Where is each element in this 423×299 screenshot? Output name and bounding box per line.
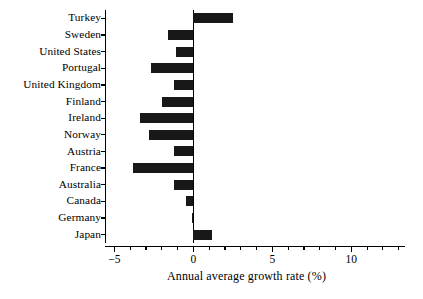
- x-axis-minor-tick: [367, 246, 368, 250]
- y-axis-label-united-states: United States: [0, 46, 101, 57]
- x-axis-minor-tick: [335, 246, 336, 250]
- x-axis-minor-tick: [161, 246, 162, 250]
- y-axis-tick: [101, 34, 106, 35]
- y-axis-label-germany: Germany: [0, 212, 101, 223]
- x-axis-tick-label: 10: [346, 253, 358, 266]
- x-axis-major-tick: [351, 246, 352, 252]
- bar-norway: [149, 130, 193, 140]
- x-axis-minor-tick: [303, 246, 304, 250]
- y-axis-category-labels: TurkeySwedenUnited StatesPortugalUnited …: [0, 10, 101, 243]
- x-axis-minor-tick: [240, 246, 241, 250]
- y-axis-tick: [101, 151, 106, 152]
- y-axis-tick: [101, 134, 106, 135]
- bar-united-kingdom: [174, 80, 193, 90]
- y-axis-tick: [101, 118, 106, 119]
- y-axis-label-france: France: [0, 162, 101, 173]
- y-axis-spine: [105, 10, 106, 243]
- x-axis-tick-label: −5: [108, 253, 120, 266]
- bar-turkey: [193, 13, 232, 23]
- x-axis-tick-labels: −50510: [0, 253, 423, 269]
- bar-germany: [192, 213, 194, 223]
- y-axis-label-united-kingdom: United Kingdom: [0, 79, 101, 90]
- zero-reference-line: [193, 10, 194, 243]
- x-axis-minor-tick: [177, 246, 178, 250]
- x-axis-minor-tick: [224, 246, 225, 250]
- y-axis-tick: [101, 234, 106, 235]
- x-axis-minor-tick: [209, 246, 210, 250]
- x-axis-tick-label: 5: [269, 253, 275, 266]
- x-axis-minor-tick: [130, 246, 131, 250]
- y-axis-tick: [101, 51, 106, 52]
- x-axis-major-tick: [272, 246, 273, 252]
- x-axis-minor-tick: [288, 246, 289, 250]
- x-axis-title-text: Annual average growth rate (%): [167, 269, 326, 283]
- y-axis-label-sweden: Sweden: [0, 29, 101, 40]
- y-axis-tick: [101, 217, 106, 218]
- bar-sweden: [168, 30, 193, 40]
- plot-area: [105, 10, 405, 243]
- y-axis-label-japan: Japan: [0, 229, 101, 240]
- bar-finland: [162, 97, 194, 107]
- y-axis-label-finland: Finland: [0, 96, 101, 107]
- bar-japan: [193, 230, 212, 240]
- x-axis-minor-tick: [319, 246, 320, 250]
- x-axis-major-tick: [193, 246, 194, 252]
- bar-canada: [186, 196, 194, 206]
- y-axis-tick: [101, 18, 106, 19]
- y-axis-tick: [101, 184, 106, 185]
- y-axis-tick: [101, 167, 106, 168]
- bar-united-states: [176, 47, 193, 57]
- y-axis-label-portugal: Portugal: [0, 62, 101, 73]
- x-axis-minor-tick: [256, 246, 257, 250]
- bar-austria: [174, 146, 193, 156]
- y-axis-label-austria: Austria: [0, 146, 101, 157]
- y-axis-tick: [101, 201, 106, 202]
- y-axis-label-turkey: Turkey: [0, 12, 101, 23]
- y-axis-label-norway: Norway: [0, 129, 101, 140]
- y-axis-tick: [101, 68, 106, 69]
- y-axis-label-australia: Australia: [0, 179, 101, 190]
- x-axis-title: Annual average growth rate (%): [0, 269, 423, 283]
- y-axis-tick: [101, 101, 106, 102]
- x-axis-minor-tick: [398, 246, 399, 250]
- y-axis-tick: [101, 84, 106, 85]
- x-axis-minor-tick: [382, 246, 383, 250]
- x-axis-major-tick: [114, 246, 115, 252]
- y-axis-label-ireland: Ireland: [0, 112, 101, 123]
- bar-australia: [174, 180, 193, 190]
- x-axis-minor-tick: [145, 246, 146, 250]
- y-axis-label-canada: Canada: [0, 195, 101, 206]
- bar-chart: TurkeySwedenUnited StatesPortugalUnited …: [0, 0, 423, 299]
- x-axis-tick-label: 0: [191, 253, 197, 266]
- bar-ireland: [140, 113, 194, 123]
- bar-portugal: [151, 63, 194, 73]
- bar-france: [133, 163, 193, 173]
